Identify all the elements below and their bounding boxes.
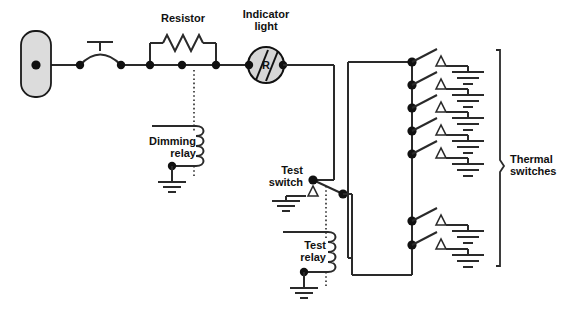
test-relay-label-line1: Test bbox=[304, 239, 326, 251]
test-switch-pivot-node bbox=[308, 175, 317, 184]
test-relay-label-line2: relay bbox=[300, 251, 327, 263]
test-switch-label-line1: Test bbox=[281, 164, 303, 176]
indicator-light-label-line2: light bbox=[254, 20, 278, 32]
ground-symbol-dimming-relay bbox=[158, 182, 186, 192]
resistor-right-node bbox=[212, 61, 220, 69]
thermal-switch-1[interactable] bbox=[407, 49, 484, 84]
ground-symbol-thermal-4 bbox=[452, 141, 484, 153]
circuit-diagram-root: R bbox=[0, 0, 569, 315]
thermal-switch-6-actuator-triangle bbox=[436, 215, 446, 225]
ground-symbol-thermal-5 bbox=[452, 164, 484, 176]
power-source bbox=[21, 31, 51, 97]
lamp-left-node bbox=[245, 61, 253, 69]
power-source-terminal-node bbox=[31, 60, 40, 69]
resistor-label: Resistor bbox=[161, 12, 206, 24]
thermal-switch-2-actuator-triangle bbox=[436, 79, 446, 89]
lamp-output-wire bbox=[283, 65, 334, 180]
test-switch-return-wire bbox=[343, 194, 412, 275]
ground-symbol-thermal-7 bbox=[452, 255, 484, 267]
circuit-breaker[interactable] bbox=[76, 42, 125, 69]
thermal-switch-1-actuator-triangle bbox=[436, 56, 446, 66]
dimming-contact-node bbox=[178, 61, 186, 69]
test-switch-label-line2: switch bbox=[269, 176, 304, 188]
ground-symbol-test-switch bbox=[272, 201, 300, 211]
thermal-switches-label-line1: Thermal bbox=[510, 153, 553, 165]
thermal-switch-4-actuator-triangle bbox=[436, 125, 446, 135]
breaker-left-node bbox=[76, 61, 84, 69]
ground-symbol-thermal-2 bbox=[452, 95, 484, 107]
dimming-relay-label-line1: Dimming bbox=[149, 135, 196, 147]
ground-symbol-test-relay bbox=[290, 288, 318, 298]
test-switch-actuator-triangle bbox=[308, 186, 318, 196]
thermal-switch-6[interactable] bbox=[407, 208, 484, 243]
dimming-relay-contact bbox=[178, 61, 186, 69]
thermal-switch-3-actuator-triangle bbox=[436, 102, 446, 112]
breaker-right-node bbox=[117, 61, 125, 69]
resistor-left-node bbox=[146, 61, 154, 69]
thermal-switch-7-actuator-triangle bbox=[436, 239, 446, 249]
ground-symbol-thermal-1 bbox=[452, 72, 484, 84]
thermal-switch-5-actuator-triangle bbox=[436, 148, 446, 158]
ground-symbol-thermal-3 bbox=[452, 118, 484, 130]
thermal-bus-feed-wire bbox=[348, 62, 412, 258]
dimming-relay-label-line2: relay bbox=[170, 147, 197, 159]
thermal-switches-label-line2: switches bbox=[510, 165, 556, 177]
lamp-letter-label: R bbox=[262, 59, 270, 71]
indicator-light: R bbox=[245, 47, 287, 83]
ground-symbol-thermal-6 bbox=[452, 231, 484, 243]
thermal-switches-bracket bbox=[496, 50, 504, 266]
circuit-schematic: R bbox=[0, 0, 569, 315]
indicator-light-label-line1: Indicator bbox=[243, 8, 290, 20]
